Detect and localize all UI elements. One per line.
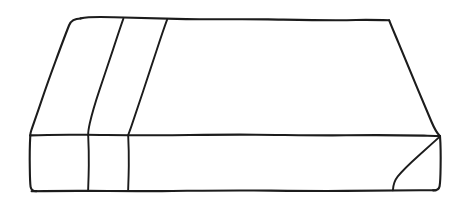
front-face-division-line-1 <box>88 135 89 191</box>
sketch-figure <box>0 0 463 206</box>
drawing-canvas <box>0 0 463 206</box>
front-face-division-line-2 <box>128 136 129 192</box>
front-face-fill <box>30 135 440 191</box>
bottom-front-edge <box>32 190 436 191</box>
